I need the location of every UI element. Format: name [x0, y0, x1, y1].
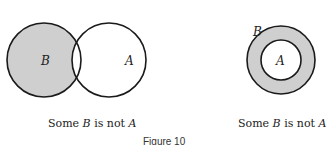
caption-text: is not: [281, 117, 319, 130]
caption-var: B: [83, 117, 91, 130]
caption-var: A: [318, 117, 326, 130]
label-b-outer: B: [252, 25, 262, 39]
caption-right: Some B is not A: [238, 117, 326, 130]
caption-text: Some: [238, 117, 273, 130]
circle-a: [72, 23, 146, 97]
caption-var: B: [273, 117, 281, 130]
label-a-inner: A: [275, 54, 285, 68]
label-a: A: [124, 54, 134, 68]
caption-text: Some: [48, 117, 83, 130]
label-b: B: [40, 54, 50, 68]
caption-var: A: [128, 117, 136, 130]
figure-label: Figure 10: [143, 136, 185, 145]
caption-left: Some B is not A: [48, 117, 136, 130]
caption-text: is not: [91, 117, 129, 130]
